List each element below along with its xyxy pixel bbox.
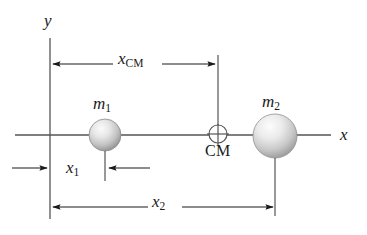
y-axis-label: y xyxy=(44,12,52,29)
mass-2-label-subscript: 2 xyxy=(274,100,280,113)
mass-2-label: m2 xyxy=(262,93,280,113)
mass-1-label: m1 xyxy=(93,95,111,115)
x-axis-label: x xyxy=(340,126,348,143)
physics-diagram-center-of-mass: y x xCM m1 m2 CM x1 x2 xyxy=(0,0,367,235)
x2-label-subscript: 2 xyxy=(160,200,166,213)
diagram-canvas xyxy=(0,0,367,235)
mass-2-sphere xyxy=(253,114,297,158)
x2-label-main: x xyxy=(152,192,160,211)
x2-dimension-label: x2 xyxy=(152,193,165,213)
mass-2-label-main: m xyxy=(262,92,274,111)
mass-1-label-subscript: 1 xyxy=(105,102,111,115)
xcm-dimension-label: xCM xyxy=(118,50,144,70)
x1-label-main: x xyxy=(66,158,74,177)
mass-1-label-main: m xyxy=(93,94,105,113)
xcm-label-main: x xyxy=(118,49,126,68)
x1-label-subscript: 1 xyxy=(74,166,80,179)
xcm-label-subscript: CM xyxy=(126,57,144,70)
mass-1-sphere xyxy=(89,119,121,151)
center-of-mass-label: CM xyxy=(205,143,231,159)
x1-dimension-label: x1 xyxy=(66,159,79,179)
